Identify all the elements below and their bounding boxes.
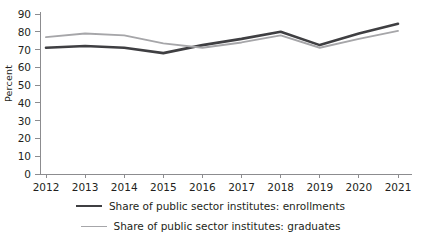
y-tick-label: 60 [11,61,31,73]
line-chart-figure: Percent 0102030405060708090 201220132014… [0,0,421,239]
series-line [46,24,398,53]
chart-legend: Share of public sector institutes: enrol… [0,196,421,236]
y-tick-label: 40 [11,97,31,109]
x-tick-label: 2018 [261,181,301,193]
x-tick-label: 2021 [378,181,418,193]
legend-line-icon-graduates [81,226,107,227]
x-tick-label: 2020 [339,181,379,193]
y-tick-label: 30 [11,115,31,127]
x-tick-label: 2015 [143,181,183,193]
data-series [46,24,398,53]
x-tick-label: 2019 [300,181,340,193]
y-tick-label: 10 [11,150,31,162]
axis-lines [40,12,412,174]
legend-label-enrollments: Share of public sector institutes: enrol… [109,200,345,212]
y-tick-label: 80 [11,26,31,38]
legend-label-graduates: Share of public sector institutes: gradu… [114,220,341,232]
x-tick-label: 2012 [26,181,66,193]
legend-line-icon-enrollments [76,205,102,207]
y-tick-label: 0 [11,168,31,180]
legend-item-enrollments: Share of public sector institutes: enrol… [0,196,421,216]
x-tick-label: 2014 [104,181,144,193]
y-tick-label: 20 [11,132,31,144]
y-tick-label: 50 [11,79,31,91]
x-tick-label: 2013 [65,181,105,193]
legend-item-graduates: Share of public sector institutes: gradu… [0,216,421,236]
x-tick-label: 2017 [222,181,262,193]
y-tick-label: 90 [11,8,31,20]
x-tick-label: 2016 [182,181,222,193]
series-line [46,31,398,48]
y-tick-label: 70 [11,44,31,56]
